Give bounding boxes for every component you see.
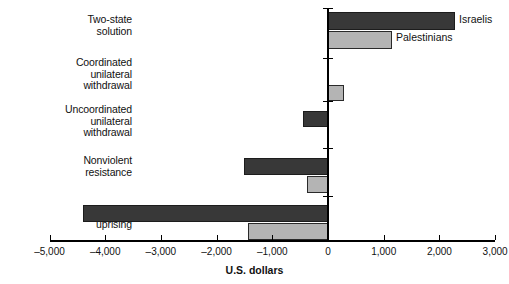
x-axis-tick: [161, 235, 162, 240]
x-axis-tick: [495, 235, 496, 240]
bar-palestinians-coordinated-unilateral-withdrawal: [328, 85, 344, 101]
category-tick: [323, 8, 333, 9]
x-axis-tick: [439, 235, 440, 240]
x-axis-tick: [50, 235, 51, 240]
zero-axis-line: [327, 8, 329, 240]
x-axis-tick: [272, 235, 273, 240]
x-axis-tick-label: –4,000: [90, 246, 121, 257]
bar-chart: Two-state solution Coordinated unilatera…: [0, 0, 509, 284]
x-axis-tick-label: –3,000: [146, 246, 177, 257]
bar-israelis-two-state-solution: [328, 12, 455, 30]
x-axis-tick: [105, 235, 106, 240]
bar-palestinians-violent-uprising: [248, 223, 328, 240]
x-axis-tick: [384, 235, 385, 240]
x-axis-line: [50, 240, 496, 242]
category-tick: [323, 58, 333, 59]
bar-palestinians-two-state-solution: [328, 31, 392, 49]
x-axis-title: U.S. dollars: [0, 264, 509, 276]
bar-israelis-uncoordinated-unilateral-withdrawal: [303, 111, 328, 127]
bar-israelis-violent-uprising: [83, 205, 328, 222]
x-axis-tick-label: 0: [325, 246, 331, 257]
x-axis-tick-label: 3,000: [483, 246, 508, 257]
x-axis-tick-label: 2,000: [427, 246, 452, 257]
category-tick: [323, 101, 333, 102]
x-axis-tick: [328, 235, 329, 240]
bar-israelis-nonviolent-resistance: [244, 158, 328, 175]
category-tick: [323, 148, 333, 149]
series-label-palestinians: Palestinians: [396, 31, 453, 43]
x-axis-tick-label: –1,000: [257, 246, 288, 257]
x-axis-tick-label: –2,000: [201, 246, 232, 257]
category-tick: [323, 196, 333, 197]
x-axis-tick-label: –5,000: [34, 246, 65, 257]
x-axis-tick-label: 1,000: [371, 246, 396, 257]
series-label-israelis: Israelis: [459, 13, 492, 25]
x-axis-tick: [217, 235, 218, 240]
bar-palestinians-nonviolent-resistance: [307, 176, 328, 193]
